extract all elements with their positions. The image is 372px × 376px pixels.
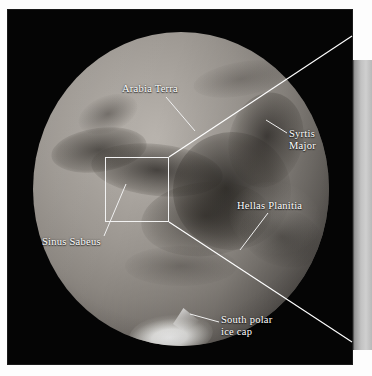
leader-sinus-sabeus: [104, 184, 126, 236]
label-sinus-sabeus: Sinus Sabeus: [42, 236, 101, 248]
figure-stage: Arabia Terra SyrtisMajor Hellas Planitia…: [0, 0, 372, 376]
annotation-overlay: [0, 0, 372, 376]
leader-hellas-planitia: [240, 213, 268, 250]
label-south-polar-line1: South polar: [221, 314, 272, 325]
label-south-polar-line2: ice cap: [221, 326, 252, 337]
leader-arabia-terra: [166, 97, 195, 131]
projection-line-top: [169, 36, 352, 157]
label-hellas-planitia: Hellas Planitia: [237, 200, 302, 212]
label-syrtis-major: SyrtisMajor: [289, 128, 316, 151]
leader-syrtis-major: [266, 120, 287, 133]
leader-south-polar-ice-cap: [190, 314, 219, 322]
label-syrtis-major-line2: Major: [289, 140, 316, 151]
label-arabia-terra: Arabia Terra: [122, 83, 178, 95]
label-south-polar-ice-cap: South polarice cap: [221, 314, 272, 337]
label-syrtis-major-line1: Syrtis: [289, 128, 315, 139]
